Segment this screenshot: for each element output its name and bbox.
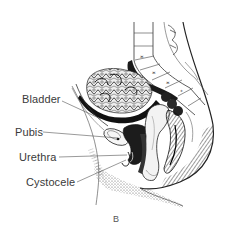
svg-text:ж: ж [166, 80, 170, 85]
label-cystocele: Cystocele [26, 177, 75, 188]
label-pubis: Pubis [15, 127, 43, 138]
svg-text:ж: ж [140, 54, 144, 59]
label-urethra: Urethra [19, 152, 56, 163]
svg-text:ж: ж [152, 70, 156, 75]
figure-caption: B [113, 215, 119, 224]
svg-text:∗: ∗ [180, 89, 183, 93]
label-bladder: Bladder [22, 94, 61, 105]
sagittal-pelvis-illustration: ж ж ж ∗ [0, 0, 232, 236]
rectum-colon [161, 92, 193, 173]
